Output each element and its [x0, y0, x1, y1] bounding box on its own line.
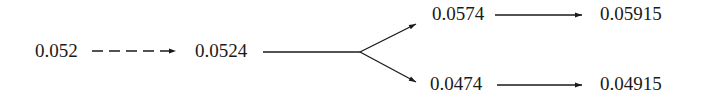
node-005915: 0.05915 [600, 3, 662, 25]
edges-layer [0, 0, 701, 101]
node-00574: 0.0574 [432, 3, 484, 25]
node-00524: 0.0524 [195, 40, 247, 62]
node-0052: 0.052 [35, 40, 78, 62]
node-004915: 0.04915 [600, 73, 662, 95]
branch-up-arrow [360, 24, 416, 52]
branch-down-arrow [360, 52, 416, 82]
node-00474: 0.0474 [430, 73, 482, 95]
